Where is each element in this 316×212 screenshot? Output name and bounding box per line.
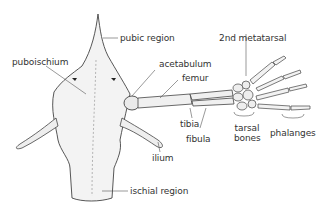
puboischium-plate <box>53 14 130 201</box>
label-phalanges: phalanges <box>270 128 316 138</box>
label-2nd-metatarsal: 2nd metatarsal <box>219 33 286 43</box>
ilium-right <box>120 118 162 148</box>
label-tarsal-line2: bones <box>234 133 261 143</box>
label-puboischium: puboischium <box>12 57 68 67</box>
label-tarsal-line1: tarsal <box>235 123 260 133</box>
label-ischial-region: ischial region <box>130 186 188 196</box>
label-tibia: tibia <box>180 119 199 129</box>
label-tarsal-bones: tarsal bones <box>234 123 260 143</box>
tarsal-bones <box>233 81 256 110</box>
label-ilium: ilium <box>152 153 173 163</box>
label-pubic-region: pubic region <box>120 33 175 43</box>
label-femur: femur <box>182 73 208 83</box>
skeleton-illustration <box>0 0 316 212</box>
label-acetabulum: acetabulum <box>159 59 211 69</box>
metatarsals-phalanges <box>250 56 310 110</box>
diagram-canvas: pubic region puboischium acetabulum femu… <box>0 0 316 212</box>
femur-shaft <box>138 94 192 108</box>
ilium-left <box>16 118 58 149</box>
label-fibula: fibula <box>186 134 211 144</box>
